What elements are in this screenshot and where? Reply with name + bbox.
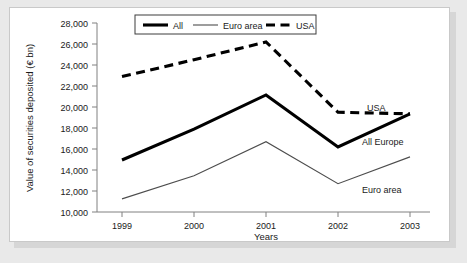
x-tick-label-2003: 2003	[400, 221, 420, 231]
series-annotations: USA All Europe Euro area	[362, 103, 404, 195]
series-group	[122, 42, 410, 199]
chart-panel: 28,000 26,000 24,000 22,000 20,000 18,00…	[9, 7, 450, 242]
annotation-all-europe: All Europe	[362, 137, 404, 147]
x-axis-title: Years	[254, 231, 278, 241]
x-tick-label-2000: 2000	[184, 221, 204, 231]
y-axis: 28,000 26,000 24,000 22,000 20,000 18,00…	[24, 19, 97, 218]
y-axis-ticks	[92, 23, 97, 212]
y-tick-label-22000: 22,000	[60, 82, 88, 92]
legend-label-usa: USA	[296, 21, 315, 31]
x-tick-label-1999: 1999	[112, 221, 132, 231]
line-chart: 28,000 26,000 24,000 22,000 20,000 18,00…	[10, 8, 449, 241]
annotation-euro-area: Euro area	[362, 185, 402, 195]
legend-label-all: All	[173, 21, 183, 31]
y-tick-label-28000: 28,000	[60, 19, 88, 29]
y-axis-title: Value of securities deposited (€ bn)	[24, 44, 35, 192]
y-tick-label-26000: 26,000	[60, 40, 88, 50]
x-axis: 1999 2000 2001 2002 2003 Years	[97, 212, 430, 241]
figure-frame: 28,000 26,000 24,000 22,000 20,000 18,00…	[0, 0, 467, 263]
x-tick-label-2002: 2002	[328, 221, 348, 231]
y-tick-label-10000: 10,000	[60, 208, 88, 218]
figure-shadow-right	[450, 12, 456, 248]
y-tick-label-16000: 16,000	[60, 145, 88, 155]
x-axis-ticks	[122, 212, 410, 217]
y-tick-label-24000: 24,000	[60, 61, 88, 71]
legend-label-euro-area: Euro area	[223, 21, 263, 31]
y-tick-label-12000: 12,000	[60, 187, 88, 197]
y-tick-label-18000: 18,000	[60, 124, 88, 134]
y-tick-label-14000: 14,000	[60, 166, 88, 176]
figure-shadow-bottom	[14, 242, 456, 248]
y-tick-label-20000: 20,000	[60, 103, 88, 113]
chart-legend: All Euro area USA	[135, 15, 316, 34]
x-tick-label-2001: 2001	[256, 221, 276, 231]
annotation-usa: USA	[367, 103, 386, 113]
